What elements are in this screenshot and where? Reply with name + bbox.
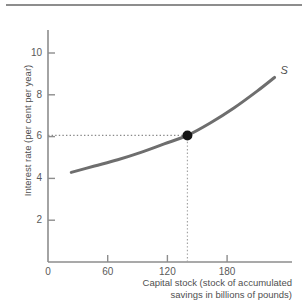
y-axis-title: Interest rate (per cent per year) [22, 36, 33, 226]
y-axis-ticks [48, 53, 55, 220]
x-tick-label-180: 180 [215, 266, 239, 277]
supply-curve-line [71, 77, 274, 172]
x-tick-label-120: 120 [155, 266, 179, 277]
x-axis-title-line-1: Capital stock (stock of accumulated [143, 277, 292, 288]
x-tick-label-0: 0 [36, 266, 60, 277]
chart-plot-area [0, 0, 305, 308]
supply-curve-label: S [281, 64, 288, 76]
equilibrium-point-marker [182, 130, 192, 140]
figure-container: 10 8 6 4 2 0 60 120 180 Interest rate (p… [0, 0, 305, 308]
x-tick-label-60: 60 [96, 266, 120, 277]
x-axis-ticks [108, 255, 227, 262]
x-axis-title-line-2: savings in billions of pounds) [120, 289, 292, 301]
x-axis-title: Capital stock (stock of accumulated savi… [120, 277, 292, 301]
